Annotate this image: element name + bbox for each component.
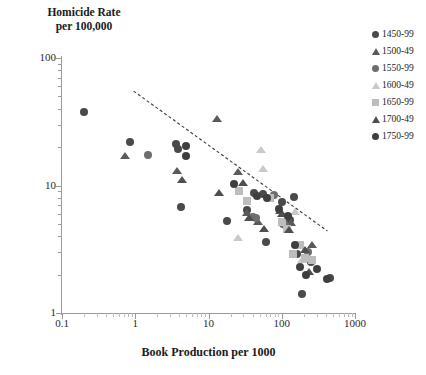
data-point-1450-99 bbox=[80, 108, 88, 116]
legend-label: 1450-99 bbox=[382, 26, 414, 43]
data-point-1500-49 bbox=[233, 168, 243, 175]
data-point-1750-99 bbox=[313, 265, 321, 273]
legend-marker-triangle-icon bbox=[372, 116, 380, 123]
data-point-1450-99 bbox=[290, 193, 298, 201]
legend-item-1600-49[interactable]: 1600-49 bbox=[372, 77, 426, 94]
x-tick-label: 1 bbox=[115, 317, 155, 329]
legend-item-1650-99[interactable]: 1650-99 bbox=[372, 94, 426, 111]
legend-item-1500-49[interactable]: 1500-49 bbox=[372, 43, 426, 60]
data-point-1650-99 bbox=[289, 250, 297, 258]
legend-label: 1650-99 bbox=[382, 94, 414, 111]
x-minor-tick bbox=[333, 313, 334, 317]
x-minor-tick bbox=[119, 313, 120, 317]
legend-item-1550-99[interactable]: 1550-99 bbox=[372, 60, 426, 77]
x-minor-tick bbox=[192, 313, 193, 317]
x-minor-tick bbox=[231, 313, 232, 317]
x-minor-tick bbox=[179, 313, 180, 317]
x-minor-tick bbox=[275, 313, 276, 317]
data-point-1450-99 bbox=[223, 217, 231, 225]
homicide-book-production-scatter-chart: Homicide Rate per 100,000 110100 0.11101… bbox=[0, 0, 426, 375]
x-minor-tick bbox=[128, 313, 129, 317]
x-minor-tick bbox=[253, 313, 254, 317]
x-minor-tick bbox=[97, 313, 98, 317]
y-axis-title: Homicide Rate per 100,000 bbox=[14, 6, 154, 33]
x-minor-tick bbox=[197, 313, 198, 317]
x-minor-tick bbox=[339, 313, 340, 317]
x-minor-tick bbox=[157, 313, 158, 317]
data-point-1600-49 bbox=[258, 165, 268, 172]
legend-label: 1550-99 bbox=[382, 60, 414, 77]
x-minor-tick bbox=[317, 313, 318, 317]
x-minor-tick bbox=[243, 313, 244, 317]
data-point-1750-99 bbox=[302, 271, 310, 279]
legend-label: 1600-49 bbox=[382, 77, 414, 94]
data-point-1650-99 bbox=[235, 187, 243, 195]
data-point-1550-99 bbox=[144, 151, 152, 159]
x-minor-tick bbox=[344, 313, 345, 317]
legend-marker-circle-icon bbox=[372, 133, 379, 140]
data-point-1750-99 bbox=[230, 180, 238, 188]
data-point-1750-99 bbox=[323, 275, 331, 283]
x-tick-label: 1000 bbox=[335, 317, 375, 329]
data-point-1700-49 bbox=[259, 225, 269, 232]
data-point-1750-99 bbox=[284, 212, 292, 220]
data-point-1450-99 bbox=[126, 138, 134, 146]
x-minor-tick bbox=[205, 313, 206, 317]
x-tick-label: 0.1 bbox=[42, 317, 82, 329]
data-point-1700-49 bbox=[284, 226, 294, 233]
data-point-1750-99 bbox=[291, 241, 299, 249]
legend-marker-circle-icon bbox=[372, 65, 379, 72]
data-point-1750-99 bbox=[296, 263, 304, 271]
data-point-1700-49 bbox=[244, 214, 254, 221]
x-tick-label: 10 bbox=[189, 317, 229, 329]
legend-item-1450-99[interactable]: 1450-99 bbox=[372, 26, 426, 43]
x-minor-tick bbox=[201, 313, 202, 317]
data-point-1650-99 bbox=[243, 197, 251, 205]
legend-item-1750-99[interactable]: 1750-99 bbox=[372, 128, 426, 145]
legend-marker-triangle-icon bbox=[372, 48, 380, 55]
x-minor-tick bbox=[170, 313, 171, 317]
legend-marker-circle-icon bbox=[372, 31, 379, 38]
data-point-1450-99 bbox=[174, 145, 182, 153]
legend-label: 1700-49 bbox=[382, 111, 414, 128]
y-tick-label: 10 bbox=[22, 179, 56, 191]
chart-legend: 1450-991500-491550-991600-491650-991700-… bbox=[372, 26, 426, 145]
x-minor-tick bbox=[348, 313, 349, 317]
data-point-1500-49 bbox=[172, 167, 182, 174]
data-point-1500-49 bbox=[120, 152, 130, 159]
data-point-1450-99 bbox=[298, 290, 306, 298]
data-points-layer bbox=[62, 58, 355, 313]
x-minor-tick bbox=[124, 313, 125, 317]
x-minor-tick bbox=[266, 313, 267, 317]
data-point-1750-99 bbox=[263, 194, 271, 202]
data-point-1700-49 bbox=[300, 246, 310, 253]
data-point-1700-49 bbox=[177, 176, 187, 183]
x-minor-tick bbox=[106, 313, 107, 317]
x-minor-tick bbox=[270, 313, 271, 317]
legend-marker-square-icon bbox=[372, 99, 379, 106]
data-point-1750-99 bbox=[182, 152, 190, 160]
data-point-1700-49 bbox=[214, 189, 224, 196]
x-minor-tick bbox=[84, 313, 85, 317]
data-point-1750-99 bbox=[182, 142, 190, 150]
data-point-1700-49 bbox=[238, 179, 248, 186]
data-point-1650-99 bbox=[308, 256, 316, 264]
x-tick-label: 100 bbox=[262, 317, 302, 329]
data-point-1450-99 bbox=[177, 203, 185, 211]
data-point-1750-99 bbox=[253, 192, 261, 200]
x-minor-tick bbox=[304, 313, 305, 317]
x-minor-tick bbox=[113, 313, 114, 317]
x-minor-tick bbox=[352, 313, 353, 317]
y-tick-label: 100 bbox=[22, 51, 56, 63]
legend-label: 1500-49 bbox=[382, 43, 414, 60]
data-point-1500-49 bbox=[212, 115, 222, 122]
x-axis-title: Book Production per 1000 bbox=[62, 345, 355, 360]
x-minor-tick bbox=[278, 313, 279, 317]
legend-item-1700-49[interactable]: 1700-49 bbox=[372, 111, 426, 128]
data-point-1600-49 bbox=[233, 234, 243, 241]
data-point-1600-49 bbox=[256, 146, 266, 153]
x-minor-tick bbox=[186, 313, 187, 317]
data-point-1450-99 bbox=[262, 238, 270, 246]
data-point-1750-99 bbox=[275, 205, 283, 213]
legend-label: 1750-99 bbox=[382, 128, 414, 145]
